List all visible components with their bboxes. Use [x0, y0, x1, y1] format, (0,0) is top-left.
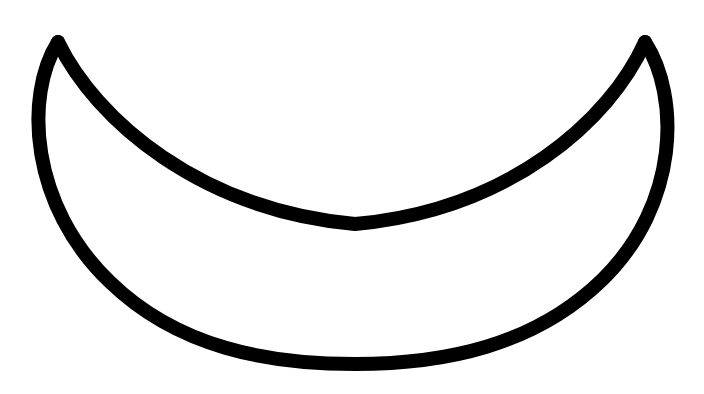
- drawing-canvas: [0, 0, 704, 394]
- crescent-figure: [0, 0, 704, 394]
- canvas-background: [0, 0, 704, 394]
